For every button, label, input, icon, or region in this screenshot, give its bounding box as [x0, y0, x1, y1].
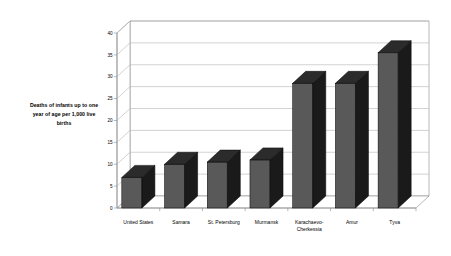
bar-side-face [398, 41, 411, 208]
bar-front-face [165, 164, 185, 208]
bar-column [293, 71, 326, 208]
x-axis-category-label: United States [123, 219, 154, 225]
bar-front-face [207, 162, 227, 208]
bar-column [207, 150, 240, 208]
bar-side-face [355, 71, 368, 208]
bar-side-face [313, 71, 326, 208]
x-axis-category-label: Samara [172, 219, 190, 225]
chart-container: Deaths of infants up to one year of age … [0, 0, 451, 256]
y-axis-tick-label: 30 [107, 74, 113, 79]
bar-column [250, 148, 283, 208]
bar-front-face [335, 83, 355, 208]
y-axis-tick-label: 0 [110, 206, 113, 211]
bar-chart-plot: 0510152025303540 United StatesSamaraSt. … [0, 0, 451, 256]
bar-column [335, 71, 368, 208]
y-axis-tick-label: 10 [107, 162, 113, 167]
x-axis-category-label: Amur [346, 219, 358, 225]
bar-front-face [293, 83, 313, 208]
x-axis-category-label: St. Petersburg [208, 219, 240, 225]
y-axis-tick-label: 25 [107, 96, 113, 101]
bar-column [165, 152, 198, 208]
x-axis-category-label: Karachaevo- [295, 219, 324, 225]
bar-front-face [378, 53, 398, 208]
bar-front-face [122, 177, 142, 208]
bar-front-face [250, 160, 270, 208]
x-axis-category-label: Murmansk [255, 219, 279, 225]
x-axis-category-label: Cherkessia [297, 226, 322, 232]
y-axis-tick-label: 40 [107, 31, 113, 36]
y-axis-tick-label: 35 [107, 53, 113, 58]
y-axis-tick-label: 15 [107, 140, 113, 145]
y-axis-tick-label: 5 [110, 184, 113, 189]
y-axis-tick-label: 20 [107, 118, 113, 123]
bar-column [378, 41, 411, 208]
x-axis-category-label: Tyva [389, 219, 400, 225]
